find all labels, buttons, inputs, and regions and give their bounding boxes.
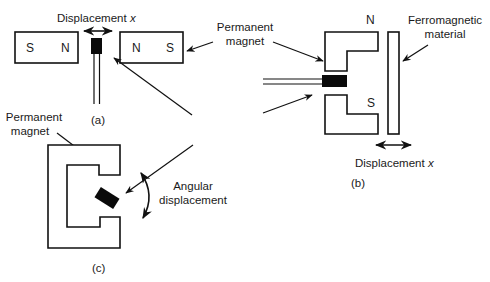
panel-c: Permanent magnet Angular displacement (c… [6,111,228,274]
panel-a: Displacement x S N N S (a) [15,12,192,126]
pointer-to-panel-a-magnet-icon [187,42,213,51]
pointer-to-panel-b-magnet-icon [273,42,323,61]
panel-a-hall-element [91,38,102,54]
panel-c-magnet-label-2: magnet [11,125,50,137]
panel-b-upper-pole-piece [325,32,378,71]
shared-permanent-magnet-label: Permanent magnet [187,21,323,61]
panel-b: N S Ferromagnetic material Displacement … [263,13,482,189]
panel-a-left-magnet-n: N [61,41,70,55]
pointer-to-ferro-icon [403,45,428,61]
svg-text:magnet: magnet [226,35,265,47]
panel-b-ferro-label-2: material [425,28,466,40]
panel-a-left-magnet-s: S [26,41,34,55]
hall-effect-sensor-diagram: Displacement x S N N S (a) Permanent mag… [0,0,490,282]
svg-text:Permanent: Permanent [217,21,274,33]
panel-b-caption: (b) [351,177,365,189]
hall-element-pointer-b-icon [263,95,312,113]
panel-b-hall-element [322,75,347,87]
panel-b-pole-n: N [366,13,375,27]
panel-c-hall-element [94,187,119,209]
panel-a-displacement-label: Displacement x [57,12,137,24]
hall-element-pointer-a-icon [114,58,192,115]
panel-c-caption: (c) [92,262,106,274]
panel-c-angular-label-1: Angular [173,180,213,192]
panel-b-pole-s: S [367,96,375,110]
panel-c-magnet-label-1: Permanent [6,111,63,123]
panel-b-displacement-label: Displacement x [355,157,435,169]
panel-a-right-magnet-s: S [166,41,174,55]
panel-a-caption: (a) [91,114,105,126]
panel-b-ferromagnetic-bar [388,32,399,134]
panel-a-right-magnet-n: N [132,41,141,55]
panel-b-ferro-label-1: Ferromagnetic [408,14,482,26]
angular-displacement-arrow-icon [141,173,149,218]
panel-c-angular-label-2: displacement [159,194,228,206]
